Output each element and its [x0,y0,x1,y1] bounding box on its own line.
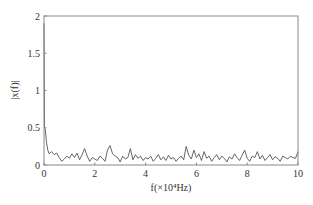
x-tick-label: 2 [92,168,97,179]
plot-area [44,24,298,163]
x-axis-label: f(×10⁴Hz) [151,182,192,194]
x-tick-label: 10 [293,168,303,179]
axes-frame [44,16,298,165]
x-tick-label: 6 [194,168,199,179]
axis-ticks: 024681000.511.52 [28,11,304,180]
x-tick-label: 8 [245,168,250,179]
y-tick-label: 1.5 [28,48,41,59]
y-tick-label: 2 [35,11,40,22]
spectrum-chart: 024681000.511.52 f(×10⁴Hz) |x(f)| [0,0,313,205]
y-tick-label: 1 [35,85,40,96]
x-tick-label: 4 [143,168,148,179]
series-line [44,24,298,163]
y-axis-label: |x(f)| [9,81,21,100]
x-tick-label: 0 [42,168,47,179]
y-tick-label: 0 [35,160,40,171]
y-tick-label: 0.5 [28,122,41,133]
